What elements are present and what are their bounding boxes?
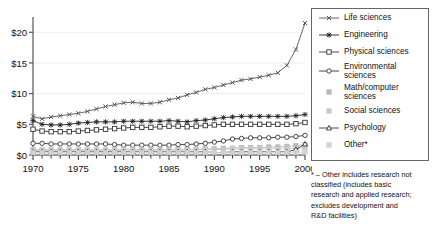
- data-point: [58, 142, 62, 146]
- data-point: [294, 122, 298, 126]
- legend-item: Psychology: [312, 119, 428, 136]
- data-point: [30, 118, 35, 123]
- footnote-line: excludes development and: [311, 201, 436, 211]
- data-point: [194, 118, 199, 123]
- data-point: [67, 150, 71, 154]
- x-tick-label: 1990: [204, 163, 225, 174]
- data-point: [194, 124, 198, 128]
- data-point: [176, 142, 180, 146]
- data-point: [112, 119, 117, 124]
- data-point: [76, 120, 81, 125]
- data-point: [276, 135, 280, 139]
- data-point: [121, 150, 125, 154]
- data-point: [158, 125, 162, 129]
- data-point: [121, 119, 126, 124]
- data-point: [140, 143, 144, 147]
- data-point: [327, 125, 332, 130]
- data-point: [176, 150, 180, 154]
- data-point: [67, 122, 72, 127]
- data-point: [131, 150, 135, 154]
- data-point: [176, 124, 180, 128]
- data-point: [327, 89, 331, 93]
- data-point: [239, 114, 244, 119]
- data-point: [139, 119, 144, 124]
- legend-item: Social sciences: [312, 102, 428, 119]
- data-point: [94, 119, 99, 124]
- chart-legend: Life sciencesEngineeringPhysical science…: [311, 8, 429, 161]
- data-point: [267, 150, 271, 154]
- data-point: [149, 150, 153, 154]
- data-point: [230, 150, 234, 154]
- data-point: [112, 126, 116, 130]
- data-point: [166, 118, 171, 123]
- legend-item: Life sciences: [312, 9, 428, 26]
- data-point: [267, 122, 271, 126]
- data-point: [239, 150, 243, 154]
- footnote-line: R&D facilities): [311, 211, 436, 221]
- data-point: [303, 120, 307, 124]
- data-point: [131, 143, 135, 147]
- data-point: [140, 125, 144, 129]
- data-point: [58, 150, 62, 154]
- data-point: [257, 150, 261, 154]
- data-point: [302, 112, 307, 117]
- chart-svg: $0$5$10$15$20197019751980198519901995200…: [0, 0, 312, 185]
- data-point: [185, 125, 189, 129]
- data-point: [103, 119, 108, 124]
- legend-item-label: Environmental sciences: [344, 62, 396, 80]
- data-point: [303, 150, 307, 154]
- data-point: [303, 21, 307, 25]
- legend-marker-square-gray-icon: [318, 106, 340, 116]
- data-point: [212, 116, 217, 121]
- data-point: [85, 142, 89, 146]
- data-point: [327, 142, 331, 146]
- chart-figure: $0$5$10$15$20197019751980198519901995200…: [0, 0, 436, 242]
- legend-item: Math/computer sciences: [312, 81, 428, 102]
- data-point: [85, 128, 89, 132]
- footnote-line: research and applied research;: [311, 190, 436, 200]
- data-point: [203, 117, 208, 122]
- data-point: [194, 150, 198, 154]
- data-point: [140, 150, 144, 154]
- data-point: [167, 150, 171, 154]
- data-point: [94, 142, 98, 146]
- data-point: [76, 129, 80, 133]
- data-point: [94, 150, 98, 154]
- data-point: [185, 142, 189, 146]
- data-point: [327, 68, 331, 72]
- y-tick-label: $20: [11, 27, 27, 38]
- legend-item: Engineering: [312, 26, 428, 43]
- data-point: [58, 129, 62, 133]
- data-point: [248, 122, 252, 126]
- y-tick-label: $10: [11, 88, 27, 99]
- data-point: [267, 136, 271, 140]
- data-point: [248, 150, 252, 154]
- data-point: [158, 143, 162, 147]
- legend-marker-triangle-open-icon: [318, 123, 340, 133]
- data-point: [103, 142, 107, 146]
- series-life-sciences: [31, 21, 307, 121]
- data-point: [285, 150, 289, 154]
- chart-footnote: * – Other includes research not classifi…: [311, 170, 436, 221]
- data-point: [167, 124, 171, 128]
- data-point: [248, 114, 253, 119]
- data-point: [49, 142, 53, 146]
- data-point: [121, 126, 125, 130]
- y-tick-label: $15: [11, 58, 27, 69]
- data-point: [266, 114, 271, 119]
- data-point: [230, 122, 234, 126]
- data-point: [149, 143, 153, 147]
- data-point: [248, 136, 252, 140]
- data-point: [103, 150, 107, 154]
- legend-marker-square-gray-icon: [318, 87, 340, 97]
- data-point: [203, 150, 207, 154]
- data-point: [49, 122, 54, 127]
- data-point: [230, 114, 235, 119]
- data-point: [221, 139, 225, 143]
- data-point: [294, 47, 298, 51]
- data-point: [212, 140, 216, 144]
- data-point: [49, 150, 53, 154]
- data-point: [130, 119, 135, 124]
- legend-marker-square-open-icon: [318, 47, 340, 57]
- data-point: [230, 137, 234, 141]
